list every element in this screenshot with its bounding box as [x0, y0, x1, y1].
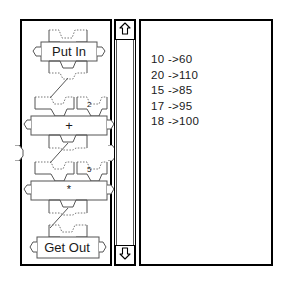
result-row: 15 ->85 — [151, 83, 199, 99]
result-row: 20 ->110 — [151, 68, 199, 84]
program-canvas[interactable]: Put In + 2 — [20, 19, 112, 266]
arrow-up-icon — [119, 21, 131, 39]
block-label-put-in: Put In — [33, 45, 105, 58]
connector-tab-icon-left — [15, 145, 24, 161]
app-window: Put In + 2 — [0, 0, 287, 285]
result-row: 10 ->60 — [151, 52, 199, 68]
block-times[interactable]: * 5 — [27, 158, 111, 214]
block-put-in[interactable]: Put In — [31, 28, 103, 80]
block-get-out[interactable]: Get Out — [31, 223, 103, 265]
arrow-down-icon — [119, 246, 131, 264]
block-arg-plus[interactable]: 2 — [87, 101, 91, 109]
result-row: 17 ->95 — [151, 99, 199, 115]
results-panel[interactable]: 10 ->60 20 ->110 15 ->85 17 ->95 18 ->10… — [139, 19, 273, 266]
block-label-times: * — [27, 184, 111, 195]
block-label-get-out: Get Out — [31, 241, 103, 254]
result-row: 18 ->100 — [151, 114, 199, 130]
block-plus[interactable]: + 2 — [27, 93, 111, 149]
scrollbar-track[interactable] — [116, 40, 134, 245]
scroll-down-button[interactable] — [115, 245, 135, 265]
vertical-scrollbar[interactable] — [114, 19, 136, 266]
scroll-up-button[interactable] — [115, 20, 135, 40]
block-arg-times[interactable]: 5 — [87, 166, 91, 174]
block-label-plus: + — [27, 119, 111, 132]
results-list: 10 ->60 20 ->110 15 ->85 17 ->95 18 ->10… — [151, 52, 199, 130]
